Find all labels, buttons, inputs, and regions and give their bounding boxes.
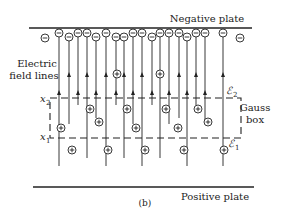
field-arrow xyxy=(94,90,98,95)
negative-plate-label: Negative plate xyxy=(170,13,245,24)
field-arrow xyxy=(104,72,108,77)
negative-charge xyxy=(129,29,137,37)
field-arrow xyxy=(114,90,118,95)
positive-charge xyxy=(162,105,170,113)
positive-charge xyxy=(57,124,65,132)
negative-charge xyxy=(201,29,209,37)
positive-charge xyxy=(141,146,149,154)
field-arrow xyxy=(194,72,198,77)
negative-charge xyxy=(74,29,82,37)
positive-charge xyxy=(123,105,131,113)
negative-charge xyxy=(92,33,100,41)
gauss-box-label-line1: Gauss xyxy=(240,102,271,113)
field-arrow xyxy=(76,90,80,95)
field-lines-label-line2: field lines xyxy=(9,70,58,81)
negative-charge xyxy=(236,34,244,42)
field-arrow xyxy=(122,72,126,77)
positive-charge xyxy=(180,146,188,154)
field-arrow xyxy=(203,90,207,95)
positive-charge xyxy=(68,146,76,154)
positive-charge xyxy=(86,105,94,113)
e1-label: ℰ 1 xyxy=(228,138,239,152)
positive-charge xyxy=(220,146,228,154)
svg-text:ℰ: ℰ xyxy=(226,85,233,96)
e2-label: ℰ 2 xyxy=(226,85,237,99)
negative-charge xyxy=(183,33,191,41)
positive-plate-label: Positive plate xyxy=(181,191,249,202)
positive-charge xyxy=(113,70,121,78)
svg-text:2: 2 xyxy=(233,91,237,99)
gauss-box xyxy=(50,98,241,138)
diagram-canvas: Negative plate Positive plate (b) Electr… xyxy=(0,0,288,214)
negative-charge xyxy=(41,34,49,42)
field-lines-label-line1: Electric xyxy=(17,58,57,69)
field-arrow xyxy=(150,90,154,95)
field-arrow xyxy=(221,72,225,77)
svg-text:1: 1 xyxy=(46,137,50,145)
positive-charge xyxy=(132,124,140,132)
field-arrow xyxy=(57,90,61,95)
negative-charge xyxy=(165,29,173,37)
negative-charge xyxy=(65,33,73,41)
gauss-box-label-line2: box xyxy=(246,114,264,125)
svg-text:ℰ: ℰ xyxy=(228,138,235,149)
positive-charge xyxy=(156,70,164,78)
negative-charge xyxy=(102,29,110,37)
field-arrow xyxy=(85,72,89,77)
negative-charge xyxy=(156,29,164,37)
positive-charge xyxy=(104,146,112,154)
x1-label: x 1 xyxy=(40,131,50,145)
positive-charge xyxy=(174,124,182,132)
svg-text:1: 1 xyxy=(235,144,239,152)
negative-charge xyxy=(138,29,146,37)
charges-layer xyxy=(41,29,244,154)
field-arrow xyxy=(140,72,144,77)
field-arrow xyxy=(185,90,189,95)
field-lines-layer xyxy=(57,37,225,166)
positive-charge xyxy=(95,118,103,126)
negative-charge xyxy=(175,29,183,37)
field-arrow xyxy=(167,90,171,95)
positive-charge xyxy=(194,105,202,113)
field-arrow xyxy=(177,72,181,77)
negative-charge xyxy=(219,29,227,37)
field-arrow xyxy=(131,90,135,95)
negative-charge xyxy=(55,29,63,37)
negative-charge xyxy=(192,29,200,37)
figure-caption: (b) xyxy=(139,198,152,208)
negative-charge xyxy=(120,33,128,41)
negative-charge xyxy=(148,33,156,41)
positive-charge xyxy=(204,118,212,126)
svg-text:2: 2 xyxy=(46,99,50,107)
x2-label: x 2 xyxy=(40,93,50,107)
field-arrow xyxy=(67,72,71,77)
negative-charge xyxy=(83,29,91,37)
negative-charge xyxy=(112,33,120,41)
